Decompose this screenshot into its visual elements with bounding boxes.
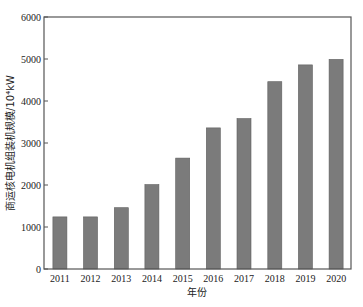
y-tick-label: 5000 (21, 54, 41, 65)
bar-2017 (237, 119, 251, 269)
bar-2018 (268, 82, 282, 269)
x-axis-ticks: 2011201220132014201520162017201820192020 (50, 273, 346, 284)
x-tick-label: 2019 (295, 273, 315, 284)
bar-2011 (53, 217, 67, 269)
x-tick-label: 2016 (203, 273, 223, 284)
x-tick-label: 2014 (142, 273, 162, 284)
bar-2016 (206, 128, 220, 269)
x-tick-label: 2013 (111, 273, 131, 284)
bars-group (53, 59, 343, 269)
x-tick-label: 2012 (81, 273, 101, 284)
y-tick-label: 3000 (21, 138, 41, 149)
bar-2015 (176, 158, 190, 269)
y-tick-label: 6000 (21, 12, 41, 23)
y-tick-label: 0 (36, 264, 41, 275)
y-tick-label: 4000 (21, 96, 41, 107)
x-tick-label: 2017 (234, 273, 254, 284)
y-tick-label: 1000 (21, 222, 41, 233)
x-axis-title: 年份 (187, 286, 207, 298)
bar-2020 (329, 59, 343, 269)
bar-2012 (84, 217, 98, 269)
x-tick-label: 2011 (50, 273, 70, 284)
y-axis-title: 商运核电机组装机规模/10⁴kW (4, 75, 16, 211)
y-tick-label: 2000 (21, 180, 41, 191)
x-tick-label: 2015 (173, 273, 193, 284)
x-tick-label: 2018 (265, 273, 285, 284)
bar-2019 (298, 65, 312, 269)
bar-2014 (145, 185, 159, 269)
bar-chart: 0100020003000400050006000 20112012201320… (0, 0, 363, 307)
bar-2013 (114, 208, 128, 269)
x-tick-label: 2020 (326, 273, 346, 284)
